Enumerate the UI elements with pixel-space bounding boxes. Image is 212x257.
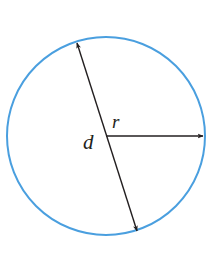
circle-diagram: r d xyxy=(0,0,212,257)
diameter-label: d xyxy=(83,130,94,154)
diagram-svg: r d xyxy=(0,0,212,257)
radius-label: r xyxy=(112,111,120,132)
